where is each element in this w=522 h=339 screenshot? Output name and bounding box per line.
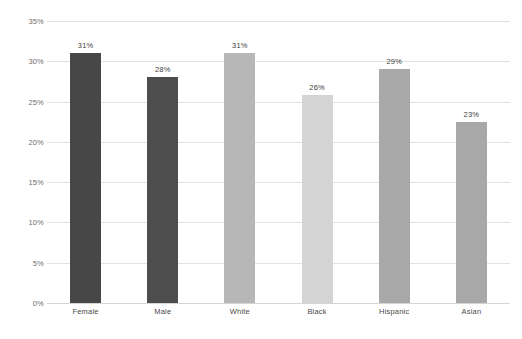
bar-value-label: 23% [464,110,480,119]
bars-group: 31%28%31%26%29%23% [47,21,510,303]
y-axis-tick-label: 35% [4,17,44,26]
bar[interactable] [456,122,487,303]
bar-chart: 0%5%10%15%20%25%30%35% 31%28%31%26%29%23… [0,0,522,339]
y-axis-tick-label: 15% [4,178,44,187]
y-axis-tick-label: 10% [4,218,44,227]
bar-value-label: 28% [155,65,171,74]
bar-value-label: 29% [386,57,402,66]
bar-slot: 31% [224,21,255,303]
bar-value-label: 26% [309,83,325,92]
x-axis-category-label: White [201,307,278,316]
y-axis-tick-label: 0% [4,299,44,308]
bar-slot: 29% [379,21,410,303]
bar[interactable] [224,53,255,303]
x-axis: FemaleMaleWhiteBlackHispanicAsian [47,307,510,329]
x-axis-category-label: Hispanic [356,307,433,316]
bar-slot: 23% [456,21,487,303]
bar[interactable] [70,53,101,303]
x-axis-category-label: Male [124,307,201,316]
y-axis-tick-label: 20% [4,137,44,146]
y-axis-tick-label: 25% [4,97,44,106]
bar-slot: 26% [302,21,333,303]
x-axis-category-label: Asian [433,307,510,316]
bar-slot: 31% [70,21,101,303]
bar-value-label: 31% [232,41,248,50]
bar[interactable] [379,69,410,303]
x-axis-category-label: Black [279,307,356,316]
y-axis: 0%5%10%15%20%25%30%35% [0,21,44,303]
bar[interactable] [302,95,333,303]
bar-value-label: 31% [78,41,94,50]
x-axis-category-label: Female [47,307,124,316]
y-axis-tick-label: 30% [4,57,44,66]
y-axis-tick-label: 5% [4,258,44,267]
bar-slot: 28% [147,21,178,303]
gridline [47,303,510,304]
bar[interactable] [147,77,178,303]
